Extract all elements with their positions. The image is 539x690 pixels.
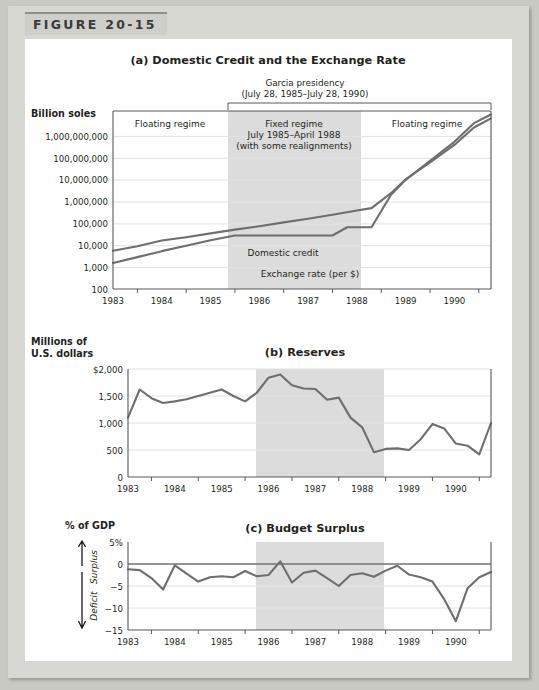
panel-b-chart: Millions of U.S. dollars (b) Reserves $2… xyxy=(25,329,512,514)
x-tick-label: 1983 xyxy=(117,484,139,494)
panel-c-deficit-label: Deficit xyxy=(89,591,99,621)
panel-a-regime-right-label: Floating regime xyxy=(392,119,463,129)
panel-a-regime-mid-label-3: (with some realignments) xyxy=(236,141,352,151)
x-tick-label: 1987 xyxy=(304,637,326,647)
panel-b-y-tick-labels: $2,000 1,500 1,000 500 0 xyxy=(93,365,123,483)
panel-a-bracket-label-2: (July 28, 1985–July 28, 1990) xyxy=(242,89,369,99)
svg-text:1,000: 1,000 xyxy=(83,263,108,273)
figure-header: FIGURE 20-15 xyxy=(25,12,167,35)
svg-text:100: 100 xyxy=(92,285,108,295)
svg-text:1,500: 1,500 xyxy=(98,392,123,402)
panel-a-regime-mid-label-2: July 1985–April 1988 xyxy=(247,130,341,140)
svg-text:$2,000: $2,000 xyxy=(93,365,123,375)
x-tick-label: 1985 xyxy=(211,484,233,494)
panel-a-x-ticks xyxy=(137,289,478,293)
panel-a-y-axis-label: Billion soles xyxy=(31,108,96,119)
svg-text:0: 0 xyxy=(118,560,123,570)
x-tick-label: 1989 xyxy=(398,637,420,647)
x-tick-label: 1984 xyxy=(164,484,186,494)
panel-a-bracket-label-1: Garcia presidency xyxy=(265,78,344,88)
panel-a-chart: (a) Domestic Credit and the Exchange Rat… xyxy=(25,39,512,329)
x-tick-label: 1986 xyxy=(248,296,270,306)
garcia-presidency-bracket xyxy=(228,103,491,110)
x-tick-label: 1988 xyxy=(351,484,373,494)
svg-text:1,000,000: 1,000,000 xyxy=(64,197,108,207)
x-tick-label: 1987 xyxy=(304,484,326,494)
panel-c-x-tick-labels: 19831984198519861987198819891990 xyxy=(117,637,467,647)
x-tick-label: 1987 xyxy=(297,296,319,306)
x-tick-label: 1986 xyxy=(258,484,280,494)
svg-text:10,000,000: 10,000,000 xyxy=(59,175,108,185)
figure-content-panel: (a) Domestic Credit and the Exchange Rat… xyxy=(25,39,512,661)
svg-text:500: 500 xyxy=(107,446,123,456)
svg-text:10,000: 10,000 xyxy=(78,241,108,251)
panel-a-series-label-exchange-rate: Exchange rate (per $) xyxy=(261,269,360,279)
x-tick-label: 1990 xyxy=(445,637,467,647)
deficit-arrow-icon xyxy=(78,572,85,628)
panel-b-x-ticks xyxy=(151,477,479,481)
x-tick-label: 1988 xyxy=(346,296,368,306)
x-tick-label: 1989 xyxy=(395,296,417,306)
x-tick-label: 1988 xyxy=(351,637,373,647)
panel-a-x-tick-labels: 19831984198519861987198819891990 xyxy=(102,296,465,306)
svg-text:1,000,000,000: 1,000,000,000 xyxy=(45,132,108,142)
panel-a-regime-mid-label-1: Fixed regime xyxy=(265,119,323,129)
panel-b-y-axis-label-1: Millions of xyxy=(31,336,88,347)
x-tick-label: 1983 xyxy=(117,637,139,647)
panel-a-regime-left-label: Floating regime xyxy=(135,119,206,129)
panel-c-title: (c) Budget Surplus xyxy=(245,522,365,535)
panel-c-chart: % of GDP (c) Budget Surplus Surplus Defi… xyxy=(25,514,512,659)
panel-a-y-tick-labels: 1,000,000,000 100,000,000 10,000,000 1,0… xyxy=(45,132,108,295)
panel-b-y-axis-label-2: U.S. dollars xyxy=(31,348,94,359)
x-tick-label: 1990 xyxy=(445,484,467,494)
svg-text:1,000: 1,000 xyxy=(98,419,123,429)
panel-c-y-axis-label: % of GDP xyxy=(65,520,115,531)
panel-a-title: (a) Domestic Credit and the Exchange Rat… xyxy=(130,54,405,67)
panel-c-surplus-label: Surplus xyxy=(89,550,99,584)
x-tick-label: 1985 xyxy=(211,637,233,647)
figure-label: FIGURE 20-15 xyxy=(25,17,157,32)
svg-text:−10: −10 xyxy=(105,604,123,614)
x-tick-label: 1985 xyxy=(200,296,222,306)
svg-text:100,000,000: 100,000,000 xyxy=(53,154,108,164)
x-tick-label: 1986 xyxy=(258,637,280,647)
surplus-arrow-icon xyxy=(78,541,85,566)
figure-frame: FIGURE 20-15 (a) Domestic Credit and the… xyxy=(8,6,529,678)
svg-text:100,000: 100,000 xyxy=(72,219,108,229)
x-tick-label: 1984 xyxy=(164,637,186,647)
svg-text:−15: −15 xyxy=(105,626,123,636)
panel-b-title: (b) Reserves xyxy=(265,346,346,359)
svg-text:5%: 5% xyxy=(109,538,123,548)
panel-c-x-ticks xyxy=(151,630,479,634)
x-tick-label: 1989 xyxy=(398,484,420,494)
x-tick-label: 1983 xyxy=(102,296,124,306)
svg-text:−5: −5 xyxy=(110,582,123,592)
panel-a-series-label-credit: Domestic credit xyxy=(248,248,319,258)
x-tick-label: 1984 xyxy=(151,296,173,306)
svg-text:0: 0 xyxy=(118,473,123,483)
x-tick-label: 1990 xyxy=(443,296,465,306)
panel-c-y-tick-labels: 5% 0 −5 −10 −15 xyxy=(105,538,123,636)
panel-b-x-tick-labels: 19831984198519861987198819891990 xyxy=(117,484,467,494)
